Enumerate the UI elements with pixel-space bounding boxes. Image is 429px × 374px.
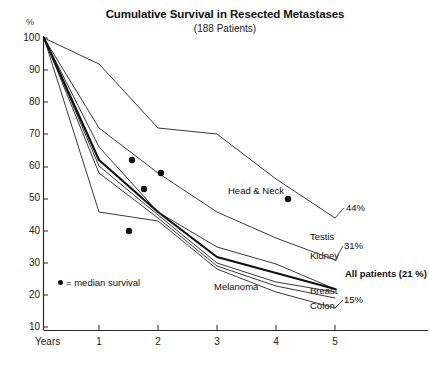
median-point-colon xyxy=(126,228,132,234)
median-point-kidney xyxy=(129,157,135,163)
series-line-melanoma xyxy=(44,38,335,292)
median-point-head-neck xyxy=(285,196,291,202)
series-line-head-neck xyxy=(44,38,335,218)
chart-page: Cumulative Survival in Resected Metastas… xyxy=(0,0,429,374)
series-line-breast xyxy=(44,38,335,298)
leader-line-31 xyxy=(335,246,343,260)
x-axis-ticks xyxy=(99,325,335,331)
annotation-leader-lines xyxy=(335,208,344,308)
chart-series-lines xyxy=(44,38,335,308)
chart-plot-area xyxy=(0,0,429,374)
y-axis-ticks xyxy=(44,38,49,327)
leader-line-44 xyxy=(335,208,344,218)
series-line-kidney xyxy=(44,38,335,289)
series-line-colon xyxy=(44,38,335,308)
median-point-testis xyxy=(158,170,164,176)
chart-axes xyxy=(44,36,429,331)
median-survival-points xyxy=(126,157,291,234)
series-line-all-patients xyxy=(44,38,335,289)
series-line-testis xyxy=(44,38,335,260)
leader-line-15 xyxy=(335,300,343,308)
median-point-all-patients xyxy=(141,186,147,192)
